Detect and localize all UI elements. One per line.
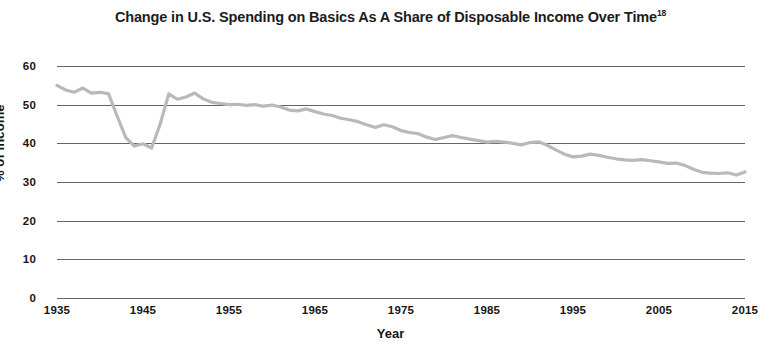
series-svg [57, 66, 745, 298]
x-tick-label: 1975 [371, 304, 431, 316]
x-tick-label: 1965 [285, 304, 345, 316]
x-tick-label: 1955 [199, 304, 259, 316]
x-tick-label: 1995 [543, 304, 603, 316]
y-axis-title: % of income [0, 104, 7, 182]
x-tick-label: 1935 [27, 304, 87, 316]
x-tick-label: 2015 [715, 304, 775, 316]
gridline-0 [57, 298, 745, 299]
x-tick-label: 2005 [629, 304, 689, 316]
x-tick-label: 1945 [113, 304, 173, 316]
x-axis-title: Year [0, 326, 781, 341]
plot-area [57, 66, 745, 298]
data-series-line [57, 85, 745, 175]
y-tick-label: 0 [0, 292, 36, 304]
x-tick-label: 1985 [457, 304, 517, 316]
y-tick-label: 20 [0, 215, 36, 227]
chart-title: Change in U.S. Spending on Basics As A S… [0, 8, 781, 25]
y-tick-label: 60 [0, 60, 36, 72]
chart-title-footnote-superscript: 18 [657, 8, 666, 18]
chart-figure: Change in U.S. Spending on Basics As A S… [0, 0, 781, 348]
y-tick-label: 10 [0, 253, 36, 265]
chart-title-text: Change in U.S. Spending on Basics As A S… [115, 9, 657, 25]
